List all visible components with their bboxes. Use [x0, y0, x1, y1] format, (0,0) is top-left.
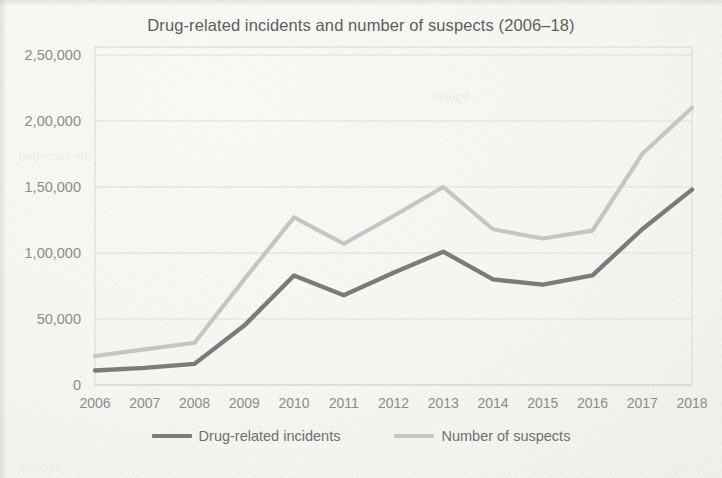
y-axis-tick-label: 0	[73, 377, 81, 393]
y-axis-tick-label: 50,000	[37, 311, 81, 327]
x-axis-tick-label: 2011	[329, 395, 359, 411]
x-axis-tick-labels: 2006200720082009201020112012201320142015…	[79, 395, 707, 411]
x-axis-tick-label: 2008	[179, 395, 210, 411]
y-axis-tick-label: 2,50,000	[25, 47, 81, 63]
y-axis-tick-label: 1,50,000	[25, 179, 81, 195]
x-axis-tick-label: 2010	[278, 395, 309, 411]
x-axis-tick-label: 2016	[577, 395, 608, 411]
ghost-showthrough-3: section	[20, 460, 62, 474]
legend-line-swatch	[394, 434, 434, 438]
x-axis-tick-label: 2018	[676, 395, 707, 411]
x-axis-tick-label: 2007	[129, 395, 160, 411]
line-chart-svg: 2,50,0002,00,0001,50,0001,00,00050,0000 …	[0, 0, 722, 420]
x-axis-tick-label: 2006	[79, 395, 110, 411]
data-series-group	[95, 108, 692, 371]
legend-item[interactable]: Number of suspects	[394, 428, 570, 444]
y-axis-tick-label: 2,00,000	[25, 113, 81, 129]
legend-item-label: Drug-related incidents	[199, 428, 341, 444]
x-axis-tick-label: 2014	[477, 395, 508, 411]
y-axis-tick-labels: 2,50,0002,00,0001,50,0001,00,00050,0000	[25, 47, 81, 393]
x-axis-tick-label: 2015	[527, 395, 558, 411]
legend-item-label: Number of suspects	[441, 428, 570, 444]
x-axis-tick-label: 2009	[229, 395, 260, 411]
chart-plot-area: 2,50,0002,00,0001,50,0001,00,00050,0000 …	[0, 0, 722, 420]
legend-item[interactable]: Drug-related incidents	[152, 428, 341, 444]
x-axis-tick-label: 2017	[627, 395, 658, 411]
chart-legend: Drug-related incidentsNumber of suspects	[0, 428, 722, 444]
gridlines-group	[95, 55, 692, 385]
x-axis-tick-label: 2013	[428, 395, 459, 411]
scanned-page: the recorded figures section Drug-relate…	[0, 0, 722, 478]
y-axis-tick-label: 1,00,000	[25, 245, 81, 261]
x-axis-tick-label: 2012	[378, 395, 409, 411]
legend-line-swatch	[152, 434, 192, 438]
